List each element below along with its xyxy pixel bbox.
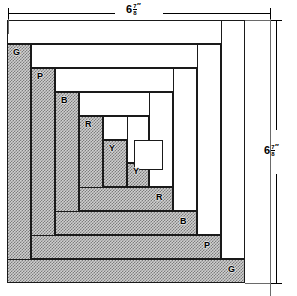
log-p-bottom [31,235,221,259]
right-dimension-label: 678″ [264,145,279,158]
top-dimension-label: 678″ [126,4,141,17]
right-dimension-unit: ″ [275,142,279,151]
log-p-top [31,44,221,68]
log-label-g-bottom: G [228,265,235,274]
log-label-y-left: Y [109,144,115,153]
right-dimension-tick-top [271,20,282,21]
log-label-y-bottom: Y [133,167,139,176]
right-dimension-line-top [276,20,277,130]
top-dimension-unit: ″ [137,1,141,10]
log-g-top [7,20,245,44]
log-label-p-bottom: P [204,241,210,250]
right-dimension-tick-bottom [271,283,282,284]
right-dimension-line-bottom [276,174,277,284]
log-b-bottom [55,211,197,235]
log-label-b-left: B [61,96,68,105]
log-b-right [173,68,197,211]
top-extension-line-left [8,18,9,34]
top-dimension-tick-right [270,8,271,19]
log-label-b-bottom: B [180,217,187,226]
log-g-bottom [7,259,245,283]
top-dimension-denominator: 8 [133,10,137,16]
log-label-r-left: R [85,120,92,129]
log-label-r-bottom: R [156,193,163,202]
log-label-g-left: G [13,48,20,57]
log-p-right [197,44,221,235]
top-dimension-line-left [8,13,115,14]
log-g-left [7,44,31,283]
right-extension-line-top [245,20,271,21]
right-dimension-denominator: 8 [271,151,275,157]
right-extension-line-bottom [245,283,271,284]
right-dimension-whole: 6 [264,144,270,156]
log-g-right [221,20,245,259]
top-dimension-line-right [163,13,270,14]
log-p-left [31,68,55,259]
log-label-p-left: P [37,72,43,81]
top-dimension-whole: 6 [126,3,132,15]
top-dimension-tick-left [8,8,9,19]
